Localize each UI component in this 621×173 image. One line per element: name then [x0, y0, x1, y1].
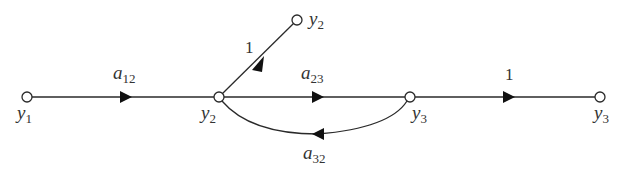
node-label-y2-output: y2 — [307, 8, 324, 32]
node-y1 — [22, 92, 32, 102]
arrowheads — [120, 56, 515, 140]
arrow-right-icon — [120, 91, 132, 103]
node-label-y2: y2 — [199, 102, 216, 126]
gain-label-1-diagonal: 1 — [245, 38, 254, 57]
arrow-right-icon — [503, 91, 515, 103]
node-y2 — [214, 92, 224, 102]
node-label-y3: y3 — [410, 102, 427, 126]
node-label-y3-output: y3 — [592, 102, 609, 126]
gain-label-a23: a23 — [301, 62, 324, 86]
node-labels: y1 y2 y2 y3 y3 — [15, 8, 609, 126]
edge-y3-y2-feedback — [222, 101, 407, 134]
node-y3 — [405, 92, 415, 102]
edge-y2-y2out — [223, 24, 294, 94]
gain-label-1-output: 1 — [505, 65, 514, 84]
signal-flow-graph: y1 y2 y2 y3 y3 a12 1 a23 a32 1 — [0, 0, 621, 173]
gain-label-a32: a32 — [303, 142, 326, 166]
gain-label-a12: a12 — [113, 62, 136, 86]
arrow-right-icon — [312, 91, 324, 103]
arrow-left-icon — [312, 128, 324, 140]
node-label-y1: y1 — [15, 102, 32, 126]
node-y3-output — [595, 92, 605, 102]
node-y2-output — [292, 15, 302, 25]
